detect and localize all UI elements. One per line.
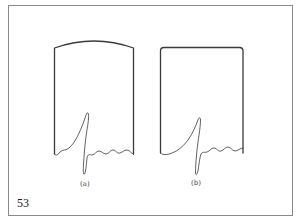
figure-number: 53 xyxy=(17,197,29,209)
panel-b-label: (b) xyxy=(191,180,201,187)
panel-a-strip xyxy=(55,41,134,174)
panel-b-waveform xyxy=(161,118,244,175)
panel-a-waveform xyxy=(55,113,134,174)
panel-a-label: (a) xyxy=(80,181,90,188)
panel-b-outline xyxy=(161,48,244,154)
panel-b-strip xyxy=(161,48,244,175)
panel-a-outline xyxy=(55,41,134,154)
figure-drawing xyxy=(0,0,301,224)
